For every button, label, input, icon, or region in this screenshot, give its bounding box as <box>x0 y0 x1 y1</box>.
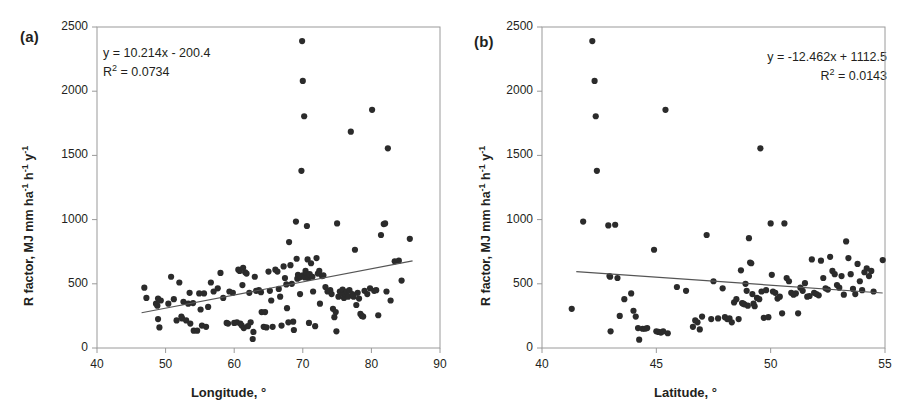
data-point <box>268 297 274 303</box>
data-point <box>715 315 721 321</box>
data-point <box>382 220 388 226</box>
data-point <box>304 223 310 229</box>
data-point <box>308 260 314 266</box>
x-tick-label: 50 <box>746 357 796 371</box>
data-point <box>158 297 164 303</box>
data-point <box>845 255 851 261</box>
data-point <box>781 220 787 226</box>
data-point <box>820 275 826 281</box>
y-tick-label: 0 <box>44 340 88 354</box>
data-point <box>297 291 303 297</box>
data-point <box>284 305 290 311</box>
data-point <box>589 38 595 44</box>
data-point <box>286 239 292 245</box>
data-point <box>748 260 754 266</box>
data-point <box>364 291 370 297</box>
data-point <box>633 313 639 319</box>
data-point <box>580 218 586 224</box>
data-point <box>880 257 886 263</box>
data-point <box>757 145 763 151</box>
data-point <box>617 313 623 319</box>
data-point <box>854 261 860 267</box>
data-point <box>243 270 249 276</box>
data-point <box>628 290 634 296</box>
data-point <box>809 256 815 262</box>
data-point <box>800 288 806 294</box>
data-point <box>720 285 726 291</box>
data-point <box>262 309 268 315</box>
panel-b: (b) R factor, MJ mm ha-1 h-1 y-1 Latitud… <box>457 0 914 420</box>
data-point <box>398 277 404 283</box>
panel-a: (a) R factor, MJ mm ha-1 h-1 y-1 Longitu… <box>0 0 457 420</box>
data-point <box>203 324 209 330</box>
data-point <box>225 321 231 327</box>
y-tick-label: 500 <box>489 276 533 290</box>
data-point <box>795 310 801 316</box>
y-tick-label: 1000 <box>489 212 533 226</box>
x-tick-label: 55 <box>860 357 910 371</box>
data-point <box>239 282 245 288</box>
data-point <box>763 287 769 293</box>
data-point <box>301 113 307 119</box>
data-point <box>736 316 742 322</box>
x-tick-label: 50 <box>141 357 191 371</box>
data-point <box>870 288 876 294</box>
data-point <box>630 308 636 314</box>
data-point <box>818 258 824 264</box>
data-point <box>385 145 391 151</box>
data-point <box>729 319 735 325</box>
scatter-points <box>141 38 413 342</box>
data-point <box>197 306 203 312</box>
data-point <box>738 267 744 273</box>
data-point <box>333 328 339 334</box>
data-point <box>383 288 389 294</box>
data-point <box>293 218 299 224</box>
y-tick-label: 500 <box>44 276 88 290</box>
data-point <box>841 292 847 298</box>
y-tick-label: 2500 <box>489 19 533 33</box>
data-point <box>248 319 254 325</box>
data-point <box>793 290 799 296</box>
x-tick-label: 45 <box>631 357 681 371</box>
data-point <box>852 291 858 297</box>
data-point <box>612 222 618 228</box>
data-point <box>348 129 354 135</box>
data-point <box>187 290 193 296</box>
data-point <box>270 324 276 330</box>
data-point <box>141 285 147 291</box>
data-point <box>278 322 284 328</box>
data-point <box>155 316 161 322</box>
data-point <box>744 288 750 294</box>
plot-frame <box>542 27 885 348</box>
data-point <box>651 247 657 253</box>
data-point <box>215 285 221 291</box>
data-point <box>848 271 854 277</box>
data-point <box>360 313 366 319</box>
x-tick-label: 70 <box>278 357 328 371</box>
data-point <box>282 275 288 281</box>
data-point <box>373 287 379 293</box>
data-point <box>745 303 751 309</box>
data-point <box>683 288 689 294</box>
data-point <box>312 323 318 329</box>
data-point <box>263 324 269 330</box>
data-point <box>636 337 642 343</box>
x-tick-label: 60 <box>209 357 259 371</box>
data-point <box>353 302 359 308</box>
data-point <box>298 168 304 174</box>
data-point <box>816 292 822 298</box>
data-point <box>765 314 771 320</box>
data-point <box>280 263 286 269</box>
data-point <box>168 274 174 280</box>
data-point <box>407 236 413 242</box>
y-tick-label: 1500 <box>489 147 533 161</box>
y-tick-label: 1500 <box>44 147 88 161</box>
data-point <box>252 274 258 280</box>
data-point <box>779 310 785 316</box>
data-point <box>697 326 703 332</box>
data-point <box>143 295 149 301</box>
data-point <box>708 316 714 322</box>
data-point <box>265 269 271 275</box>
data-point <box>290 319 296 325</box>
data-point <box>205 304 211 310</box>
